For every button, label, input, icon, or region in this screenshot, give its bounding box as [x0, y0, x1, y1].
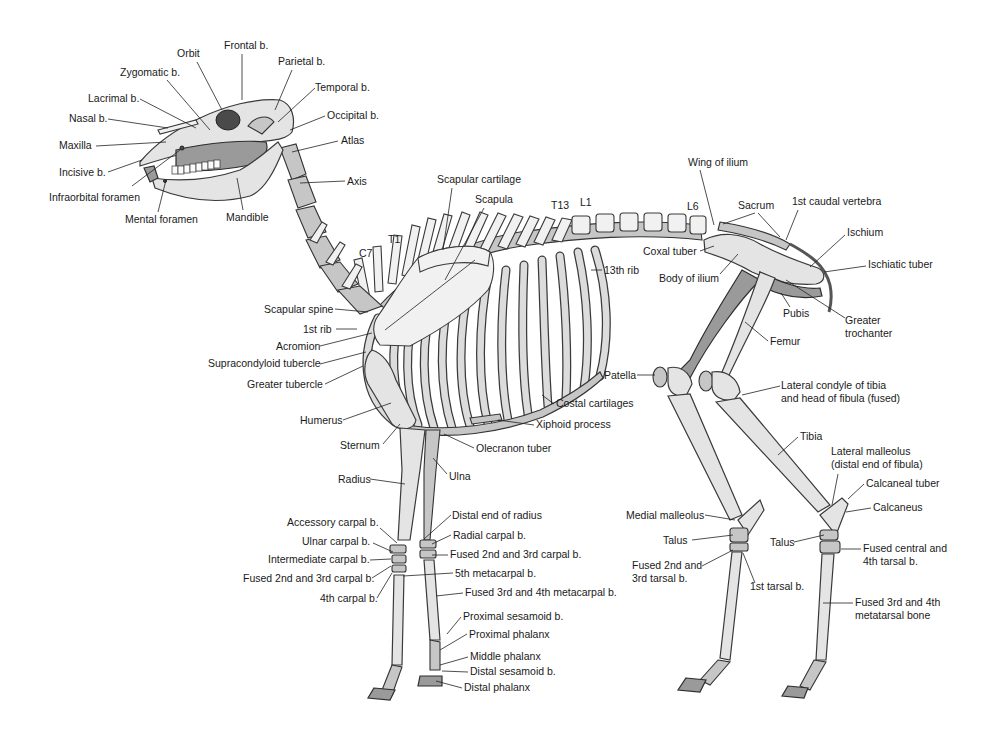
leader-line-radial-carpal	[432, 535, 451, 544]
label-distal-sesamoid: Distal sesamoid b.	[470, 665, 556, 677]
label-wing-of-ilium: Wing of ilium	[688, 156, 748, 168]
leader-line-1st-tarsal	[743, 553, 755, 583]
label-olecranon: Olecranon tuber	[476, 442, 552, 454]
label-lateral-malleolus: Lateral malleolus	[831, 445, 910, 457]
leader-line-orbit	[197, 62, 222, 110]
leader-line-lateral-condyle	[742, 386, 780, 395]
label-radius: Radius	[338, 473, 371, 485]
label-ulna: Ulna	[449, 470, 471, 482]
label-calcaneal-tuber: Calcaneal tuber	[866, 477, 940, 489]
leader-line-1st-caudal	[786, 210, 798, 240]
label-parietal: Parietal b.	[278, 55, 325, 67]
leader-line-atlas	[292, 141, 338, 152]
label-scapular-cartilage: Scapular cartilage	[437, 173, 521, 185]
label-xiphoid: Xiphoid process	[536, 418, 611, 430]
label-5th-metacarpal: 5th metacarpal b.	[455, 567, 536, 579]
label-sternum: Sternum	[340, 439, 380, 451]
label-4th-carpal: 4th carpal b.	[320, 592, 378, 604]
leader-line-distal-sesamoid	[442, 671, 468, 672]
label-proximal-phalanx: Proximal phalanx	[469, 628, 550, 640]
label-lateral-condyle: Lateral condyle of tibia	[781, 379, 886, 391]
leader-line-occipital	[290, 116, 325, 130]
label-ischium: Ischium	[847, 226, 883, 238]
label-greater-tubercle: Greater tubercle	[247, 378, 323, 390]
label-pubis: Pubis	[783, 307, 809, 319]
label-fused-central-4th-2: 4th tarsal b.	[863, 555, 918, 567]
label-maxilla: Maxilla	[59, 139, 92, 151]
label-ulnar-carpal: Ulnar carpal b.	[302, 535, 370, 547]
leader-line-radius	[370, 479, 405, 484]
label-sacrum: Sacrum	[738, 199, 774, 211]
leader-line-calcaneus	[846, 508, 871, 512]
label-fused-3-4-metacarpal: Fused 3rd and 4th metacarpal b.	[465, 586, 617, 598]
label-fused-2-3-tarsal: Fused 2nd and	[632, 559, 702, 571]
label-scapula: Scapula	[475, 193, 513, 205]
label-distal-phalanx: Distal phalanx	[464, 681, 531, 693]
label-fused-2-3-tarsal-2: 3rd tarsal b.	[632, 572, 687, 584]
label-nasal: Nasal b.	[69, 112, 108, 124]
label-proximal-sesamoid: Proximal sesamoid b.	[463, 610, 563, 622]
leader-line-sacrum	[723, 213, 755, 224]
label-medial-malleolus: Medial malleolus	[626, 509, 704, 521]
label-t1: T1	[388, 233, 400, 245]
label-1st-rib: 1st rib	[303, 323, 332, 335]
skull	[140, 100, 294, 201]
label-fused-central-4th: Fused central and	[863, 542, 947, 554]
leader-line-intermediate-carpal	[370, 559, 391, 560]
label-temporal: Temporal b.	[315, 81, 370, 93]
label-lateral-condyle-2: and head of fibula (fused)	[781, 392, 900, 404]
leader-line-fused-2-3-tarsal	[702, 550, 733, 566]
leader-line-fused-2-3-carpal-l	[372, 566, 391, 578]
label-1st-tarsal: 1st tarsal b.	[750, 580, 804, 592]
label-coxal-tuber: Coxal tuber	[643, 245, 697, 257]
leader-line-calcaneal-tuber	[848, 484, 864, 499]
skeleton-diagram: OrbitFrontal b.Parietal b.Zygomatic b.Te…	[0, 0, 992, 743]
label-calcaneus: Calcaneus	[873, 501, 923, 513]
label-acromion: Acromion	[276, 340, 321, 352]
label-scapular-spine: Scapular spine	[264, 303, 334, 315]
label-lateral-malleolus-2: (distal end of fibula)	[831, 458, 923, 470]
leader-line-maxilla	[96, 142, 166, 146]
leader-line-fused-3-4-metacarpal	[436, 593, 463, 596]
label-humerus: Humerus	[300, 414, 343, 426]
label-c7: C7	[359, 247, 373, 259]
label-fused-3-4-metatarsal: Fused 3rd and 4th	[855, 596, 940, 608]
leader-line-lateral-malleolus	[832, 474, 838, 505]
label-greater-trochanter-2: trochanter	[845, 327, 893, 339]
label-accessory-carpal: Accessory carpal b.	[287, 516, 379, 528]
label-mandible: Mandible	[226, 211, 269, 223]
label-body-of-ilium: Body of ilium	[659, 272, 719, 284]
label-fused-3-4-metatarsal-2: metatarsal bone	[855, 609, 930, 621]
leader-line-proximal-sesamoid	[447, 617, 461, 634]
label-frontal: Frontal b.	[224, 39, 268, 51]
label-tibia: Tibia	[800, 430, 823, 442]
label-greater-trochanter: Greater	[845, 314, 881, 326]
leader-line-middle-phalanx	[440, 657, 468, 665]
label-middle-phalanx: Middle phalanx	[470, 650, 541, 662]
label-distal-end-radius: Distal end of radius	[452, 509, 542, 521]
leader-line-talus-l	[692, 535, 733, 540]
label-l6: L6	[687, 200, 699, 212]
label-13th-rib: 13th rib	[604, 264, 639, 276]
label-radial-carpal: Radial carpal b.	[453, 529, 526, 541]
label-1st-caudal: 1st caudal vertebra	[792, 195, 881, 207]
leader-line-proximal-phalanx	[440, 634, 467, 650]
label-t13: T13	[551, 199, 569, 211]
leader-line-4th-carpal	[377, 573, 392, 598]
leader-line-olecranon	[444, 434, 474, 448]
label-fused-2-3-carpal-r: Fused 2nd and 3rd carpal b.	[450, 548, 581, 560]
label-occipital: Occipital b.	[327, 109, 379, 121]
label-atlas: Atlas	[341, 134, 364, 146]
label-talus-r: Talus	[770, 536, 795, 548]
label-fused-2-3-carpal-l: Fused 2nd and 3rd carpal b.	[243, 572, 374, 584]
leader-line-talus-r	[794, 535, 824, 542]
leader-line-nasal	[108, 119, 168, 128]
leader-line-supracondyloid	[320, 352, 366, 364]
label-intermediate-carpal: Intermediate carpal b.	[268, 553, 370, 565]
label-orbit: Orbit	[177, 47, 200, 59]
leader-line-accessory-carpal	[380, 528, 397, 543]
leader-line-incisive	[108, 160, 142, 172]
label-zygomatic: Zygomatic b.	[120, 66, 180, 78]
leader-line-greater-tubercle	[325, 366, 363, 384]
leader-line-sternum	[383, 424, 400, 444]
